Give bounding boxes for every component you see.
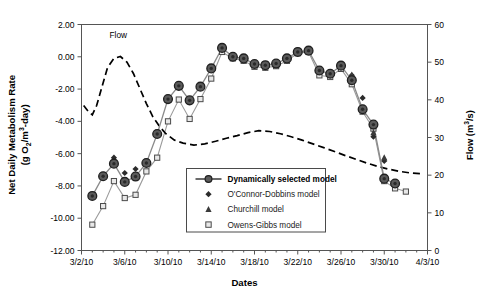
data-point-owens-gibbs (165, 119, 170, 124)
data-point-dynamic-core (220, 46, 223, 49)
x-axis-tick-label: 3/2/10 (70, 257, 94, 267)
y2-axis-tick-label: 30 (435, 133, 445, 143)
y-axis-tick-label: -8.00 (55, 181, 75, 191)
data-point-owens-gibbs (133, 192, 138, 197)
x-axis-tick-label: 4/3/10 (416, 257, 440, 267)
data-point-owens-gibbs (176, 97, 181, 102)
y2-axis-tick-label: 60 (435, 20, 445, 30)
y-axis-tick-label: -6.00 (55, 149, 75, 159)
x-axis-tick-label: 3/30/10 (370, 257, 399, 267)
data-point-dynamic-core (134, 175, 137, 178)
data-point-dynamic-core (328, 72, 331, 75)
data-point-dynamic-core (253, 62, 256, 65)
y2-axis-tick-label: 0 (435, 246, 440, 256)
y-axis-tick-label: -10.00 (50, 213, 74, 223)
legend-marker-dynamic (205, 176, 212, 183)
x-axis-tick-label: 3/10/10 (154, 257, 183, 267)
data-point-dynamic-core (242, 57, 245, 60)
data-point-owens-gibbs (122, 195, 127, 200)
legend-label: Owens-Gibbs model (228, 221, 302, 230)
data-point-dynamic-core (274, 62, 277, 65)
data-point-owens-gibbs (90, 222, 95, 227)
data-point-dynamic-core (166, 97, 169, 100)
data-point-owens-gibbs (209, 76, 214, 81)
y2-axis-tick-label: 20 (435, 170, 445, 180)
legend-label: Dynamically selected model (228, 175, 337, 184)
data-point-owens-gibbs (403, 189, 408, 194)
data-point-dynamic-core (350, 78, 353, 81)
y2-axis-tick-label: 50 (435, 57, 445, 67)
x-axis-tick-label: 3/14/10 (197, 257, 226, 267)
data-point-dynamic-core (101, 175, 104, 178)
x-axis-tick-label: 3/6/10 (113, 257, 137, 267)
y2-axis-tick-label: 40 (435, 95, 445, 105)
data-point-owens-gibbs (187, 116, 192, 121)
data-point-owens-gibbs (198, 96, 203, 101)
data-point-dynamic-core (91, 194, 94, 197)
data-point-dynamic-core (123, 180, 126, 183)
x-axis-tick-label: 3/26/10 (327, 257, 356, 267)
y2-axis-tick-label: 10 (435, 208, 445, 218)
data-point-dynamic-core (361, 108, 364, 111)
data-point-dynamic-core (155, 132, 158, 135)
data-point-dynamic-core (307, 49, 310, 52)
plot-area: 2.000.00-2.00-4.00-6.00-8.00-10.00-12.00… (0, 0, 489, 298)
legend-label: Churchill model (228, 205, 285, 214)
data-point-owens-gibbs (111, 178, 116, 183)
legend-label: O'Connor-Dobbins model (228, 190, 320, 199)
data-point-dynamic-core (296, 50, 299, 53)
data-point-dynamic-core (188, 99, 191, 102)
y-axis-tick-label: -12.00 (50, 246, 74, 256)
data-point-dynamic-core (145, 161, 148, 164)
y-axis-tick-label: 0.00 (58, 52, 75, 62)
x-axis-tick-label: 3/22/10 (284, 257, 313, 267)
data-point-dynamic-core (210, 67, 213, 70)
y-axis-tick-label: -4.00 (55, 116, 75, 126)
data-point-dynamic-core (372, 123, 375, 126)
data-point-dynamic-core (264, 63, 267, 66)
annotation-flow-label: Flow (109, 30, 128, 40)
data-point-dynamic-core (318, 69, 321, 72)
x-axis-tick-label: 3/18/10 (240, 257, 269, 267)
legend-marker-owens-gibbs (206, 222, 211, 227)
data-point-dynamic-core (177, 84, 180, 87)
data-point-owens-gibbs (155, 155, 160, 160)
y-axis-tick-label: -2.00 (55, 84, 75, 94)
data-point-owens-gibbs (101, 204, 106, 209)
data-point-dynamic-core (285, 57, 288, 60)
data-point-dynamic-core (393, 182, 396, 185)
data-point-owens-gibbs (144, 169, 149, 174)
data-point-dynamic-core (231, 55, 234, 58)
data-point-dynamic-core (112, 162, 115, 165)
y-axis-tick-label: 2.00 (58, 20, 75, 30)
data-point-dynamic-core (383, 177, 386, 180)
chart-figure: Net Daily Metabolism Rate (g O2/m3-day) … (0, 0, 489, 298)
data-point-dynamic-core (339, 64, 342, 67)
data-point-dynamic-core (199, 85, 202, 88)
